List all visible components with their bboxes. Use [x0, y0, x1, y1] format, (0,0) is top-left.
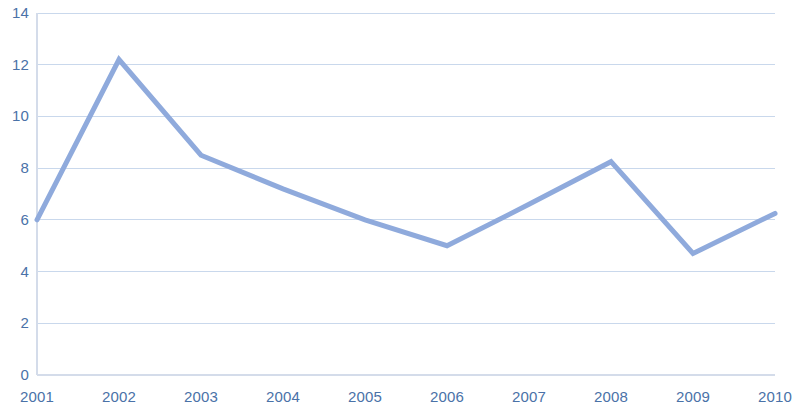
x-tick-label: 2008 — [574, 389, 648, 404]
data-line-series-0 — [37, 60, 775, 254]
y-tick-label: 2 — [1, 315, 29, 330]
x-tick-label: 2010 — [738, 389, 796, 404]
x-tick-label: 2007 — [492, 389, 566, 404]
y-tick-label: 0 — [1, 367, 29, 382]
x-tick-label: 2002 — [82, 389, 156, 404]
data-series-group — [37, 60, 775, 254]
axis-lines-group — [37, 13, 775, 375]
y-tick-label: 6 — [1, 212, 29, 227]
x-tick-label: 2003 — [164, 389, 238, 404]
gridlines-group — [37, 13, 775, 375]
y-tick-label: 10 — [1, 108, 29, 123]
y-tick-label: 8 — [1, 160, 29, 175]
y-tick-label: 4 — [1, 264, 29, 279]
x-tick-label: 2006 — [410, 389, 484, 404]
y-tick-label: 12 — [1, 57, 29, 72]
x-tick-label: 2004 — [246, 389, 320, 404]
x-tick-label: 2009 — [656, 389, 730, 404]
x-tick-label: 2005 — [328, 389, 402, 404]
x-tick-label: 2001 — [0, 389, 74, 404]
y-tick-label: 14 — [1, 5, 29, 20]
